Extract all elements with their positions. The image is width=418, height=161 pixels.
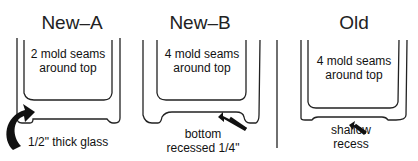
new-a-thickness-note: 1/2" thick glass	[28, 136, 108, 150]
glass-bottom-comparison-diagram: New–A New–B Old 2 mold seams around top …	[0, 0, 418, 161]
new-a-seams-label: 2 mold seams around top	[26, 48, 110, 76]
panel-title-new-a: New–A	[40, 12, 104, 34]
panel-title-old: Old	[322, 12, 386, 34]
panel-title-new-b: New–B	[168, 12, 232, 34]
new-b-seams-label: 4 mold seams around top	[158, 48, 246, 76]
new-b-recess-note: bottom recessed 1/4"	[160, 128, 246, 156]
old-recess-note: shallow recess	[326, 124, 376, 152]
old-seams-label: 4 mold seams around top	[310, 55, 398, 83]
